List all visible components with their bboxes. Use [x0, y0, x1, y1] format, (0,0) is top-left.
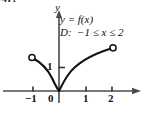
y-axis-label: y [55, 2, 60, 13]
endpoint-open-circle-right [110, 45, 116, 51]
textbook-figure: 47. y y = f(x) [0, 0, 146, 113]
annotation-equation-text: y = f(x) [60, 13, 93, 25]
y-tick-label-1: 1 [47, 61, 53, 72]
x-axis [3, 88, 141, 94]
x-axis-arrowhead [132, 88, 141, 94]
annotation-equation: y = f(x) [60, 13, 93, 25]
x-tick-label-0: 0 [48, 93, 54, 104]
curve-right-branch [59, 49, 111, 92]
x-tick-label-neg1: −1 [25, 93, 37, 104]
annotation-domain: D: −1 ≤ x ≤ 2 [60, 26, 124, 38]
endpoint-open-circle-left [29, 54, 35, 60]
x-tick-label-2: 2 [108, 93, 114, 104]
x-tick-label-1: 1 [83, 93, 89, 104]
annotation-domain-prefix: D: [60, 26, 72, 38]
annotation-domain-expression: −1 ≤ x ≤ 2 [77, 26, 123, 38]
